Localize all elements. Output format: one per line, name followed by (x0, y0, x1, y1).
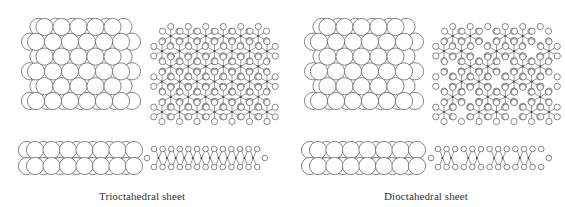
side-oxygen-bottom (478, 164, 484, 170)
side-sphere-top-front (392, 141, 409, 158)
oxygen-node (186, 104, 192, 110)
oxygen-sphere-upper (112, 92, 129, 109)
side-oxygen-top (452, 146, 458, 152)
cation-node (476, 157, 478, 159)
oxygen-sphere-upper (361, 33, 378, 50)
side-oxygen-bottom (177, 164, 183, 170)
oxygen-node (256, 74, 262, 80)
oxygen-sphere-upper (87, 18, 104, 35)
trioctahedral-side-network (144, 146, 267, 170)
cation-node (240, 35, 242, 37)
side-sphere-bottom-front (392, 157, 409, 174)
oxygen-node (203, 114, 209, 120)
oxygen-sphere-upper (336, 18, 353, 35)
cation-node (161, 111, 163, 113)
cation-node (209, 157, 211, 159)
side-oxygen-top (177, 146, 183, 152)
oxygen-node (546, 118, 552, 124)
cation-node (469, 35, 471, 37)
oxygen-sphere-upper (44, 92, 61, 109)
side-sphere-bottom-front (26, 157, 43, 174)
side-oxygen-bottom (444, 164, 450, 170)
oxygen-node (554, 83, 560, 89)
oxygen-node (185, 23, 191, 29)
oxygen-node (194, 99, 200, 105)
cation-node (252, 157, 254, 159)
cation-node (231, 50, 233, 52)
oxygen-sphere-upper (112, 33, 129, 50)
oxygen-sphere-upper (378, 63, 395, 80)
oxygen-node (238, 114, 244, 120)
oxygen-node (520, 74, 526, 80)
cation-node (192, 157, 194, 159)
oxygen-node (203, 74, 209, 80)
side-oxygen-top (487, 146, 493, 152)
side-oxygen-bottom (538, 164, 544, 170)
oxygen-node (194, 59, 200, 65)
oxygen-node (538, 114, 544, 120)
oxygen-node (246, 118, 252, 124)
oxygen-node (238, 23, 244, 29)
oxygen-sphere-upper (344, 33, 361, 50)
cation-node (452, 35, 454, 37)
oxygen-node (458, 99, 464, 105)
oxygen-node (272, 74, 278, 80)
cation-node (240, 65, 242, 67)
oxygen-node (494, 89, 500, 95)
cation-node (222, 35, 224, 37)
oxygen-node (203, 84, 209, 90)
cation-node (257, 65, 259, 67)
oxygen-sphere-upper (70, 18, 87, 35)
oxygen-node (263, 28, 269, 34)
oxygen-node (186, 43, 192, 49)
oxygen-node (450, 114, 456, 120)
oxygen-node (511, 118, 517, 124)
oxygen-node (476, 99, 482, 105)
oxygen-node (520, 114, 526, 120)
side-oxygen-bottom (151, 164, 157, 170)
oxygen-sphere-upper (370, 48, 387, 65)
cation-node (183, 157, 185, 159)
cation-node (266, 50, 268, 52)
oxygen-sphere-upper (61, 63, 78, 80)
dioctahedral-side-packing (301, 141, 425, 174)
side-oxygen-bottom (470, 164, 476, 170)
cation-node (530, 111, 532, 113)
oxygen-node (256, 104, 262, 110)
cation-node (178, 50, 180, 52)
cation-node (170, 65, 172, 67)
oxygen-node (538, 104, 544, 110)
oxygen-node (177, 89, 183, 95)
oxygen-node (519, 43, 525, 49)
side-sphere-top-front (59, 141, 76, 158)
oxygen-node (255, 84, 261, 90)
oxygen-sphere-upper (370, 18, 387, 35)
oxygen-node (468, 43, 474, 49)
cation-node (522, 65, 524, 67)
side-sphere-top-front (26, 141, 43, 158)
oxygen-node (511, 39, 517, 45)
side-oxygen-top (203, 146, 209, 152)
oxygen-node (511, 89, 517, 95)
oxygen-sphere-upper (327, 92, 344, 109)
cation-node (266, 111, 268, 113)
oxygen-sphere-upper (104, 48, 121, 65)
side-oxygen-end (546, 155, 552, 161)
oxygen-node (211, 39, 217, 45)
oxygen-node (485, 54, 491, 60)
oxygen-node (485, 74, 491, 80)
side-sphere-bottom-front (309, 157, 326, 174)
dioctahedral-ball-stick-network (433, 23, 561, 124)
side-oxygen-bottom (220, 164, 226, 170)
oxygen-node (554, 104, 560, 110)
oxygen-node (272, 53, 278, 59)
cation-node (213, 81, 215, 83)
oxygen-node (449, 43, 455, 49)
cation-node (218, 157, 220, 159)
cation-node (248, 81, 250, 83)
oxygen-node (221, 43, 227, 49)
side-oxygen-top (151, 146, 157, 152)
side-oxygen-top (461, 146, 467, 152)
oxygen-node (528, 99, 534, 105)
side-sphere-top-front (375, 141, 392, 158)
